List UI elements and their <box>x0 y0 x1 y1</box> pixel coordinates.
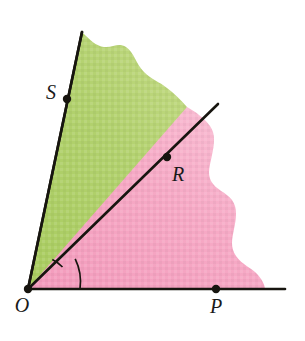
label-R: R <box>171 163 184 185</box>
label-P: P <box>209 295 222 317</box>
point-R <box>163 153 171 161</box>
label-S: S <box>46 81 56 103</box>
point-P <box>212 285 220 293</box>
label-O: O <box>15 294 29 316</box>
point-S <box>63 95 71 103</box>
diagram-canvas: O P R S <box>0 0 305 341</box>
geometry-figure: O P R S <box>0 0 305 341</box>
point-O <box>24 285 32 293</box>
